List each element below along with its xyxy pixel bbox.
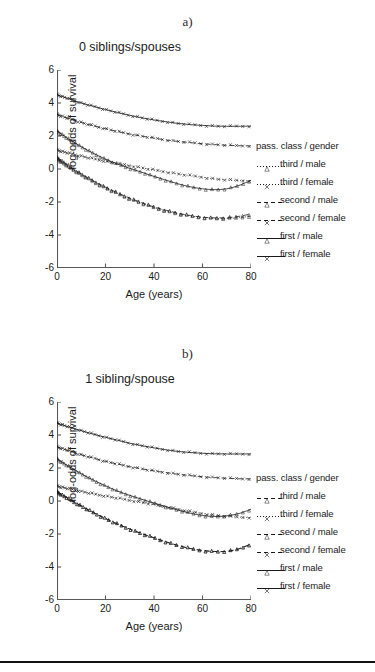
legend-item-second-male[interactable]: second / male: [256, 189, 374, 207]
legend-item-third-female[interactable]: third / female: [256, 171, 374, 189]
legend-item-second-female[interactable]: second / female: [256, 207, 374, 225]
x-tick-label: 20: [100, 604, 111, 614]
legend-label: second / female: [280, 212, 346, 223]
legend-marker-cross-icon: [262, 178, 272, 188]
legend-line-sample: [257, 172, 285, 174]
panel-b-title: 1 sibling/spouse: [0, 372, 260, 386]
x-tick-label: 60: [197, 604, 208, 614]
legend-label: third / female: [280, 176, 334, 187]
panel-b-letter: b): [0, 346, 375, 362]
legend-marker-triangle-icon: [262, 564, 272, 574]
legend-marker-cross-icon: [262, 214, 272, 224]
series-third-male: [57, 490, 251, 554]
x-tick-label: 80: [245, 272, 256, 282]
legend-item-second-male[interactable]: second / male: [256, 521, 374, 539]
legend-line-sample: [257, 576, 285, 578]
series-third-male: [57, 157, 251, 221]
legend-item-first-female[interactable]: first / female: [256, 243, 374, 261]
series-third-female: [57, 484, 251, 520]
x-tick-label: 80: [245, 604, 256, 614]
legend-marker-triangle-icon: [262, 196, 272, 206]
legend-line-sample: [257, 208, 285, 210]
x-tick-label: 0: [54, 272, 60, 282]
legend-line-sample: [257, 190, 285, 192]
panel-b-svg: [57, 402, 251, 600]
legend-item-third-male[interactable]: third / male: [256, 153, 374, 171]
legend-label: second / male: [280, 526, 338, 537]
legend-item-first-male[interactable]: first / male: [256, 225, 374, 243]
x-tick-label: 20: [100, 272, 111, 282]
legend-label: second / male: [280, 194, 338, 205]
legend-item-first-male[interactable]: first / male: [256, 557, 374, 575]
legend-marker-triangle-icon: [262, 528, 272, 538]
y-tick-label: 6: [48, 65, 54, 75]
panel-b-ylabel: log-odds of survival: [66, 399, 78, 509]
series-second-female: [57, 112, 251, 148]
y-tick-label: -6: [45, 263, 54, 273]
legend-line-sample: [257, 540, 285, 542]
legend-line-sample: [257, 154, 285, 156]
panel-a-ylabel: log-odds of survival: [66, 67, 78, 177]
panel-a-title: 0 siblings/spouses: [0, 40, 260, 54]
legend-title: pass. class / gender: [256, 472, 374, 483]
series-second-male: [57, 490, 251, 554]
y-tick-label: 4: [48, 98, 54, 108]
legend-items: third / malethird / femalesecond / males…: [256, 485, 374, 593]
legend-label: third / male: [280, 158, 326, 169]
x-tick-label: 40: [148, 272, 159, 282]
series-first-female: [57, 421, 251, 456]
legend-label: second / female: [280, 544, 346, 555]
panel-a-svg: [57, 70, 251, 268]
legend-marker-cross-icon: [262, 510, 272, 520]
legend-line-sample: [257, 244, 285, 246]
panel-a-xlabel: Age (years): [57, 288, 251, 300]
legend-label: first / male: [280, 562, 323, 573]
panel-a-legend: pass. class / gender third / malethird /…: [256, 140, 374, 261]
panel-b-xlabel: Age (years): [57, 620, 251, 632]
legend-line-sample: [257, 522, 285, 524]
x-tick-label: 0: [54, 604, 60, 614]
y-tick-label: -4: [45, 230, 54, 240]
legend-item-third-male[interactable]: third / male: [256, 485, 374, 503]
y-tick-label: 0: [48, 164, 54, 174]
y-tick-label: 2: [48, 131, 54, 141]
bottom-rule: [0, 661, 375, 663]
panel-b-legend: pass. class / gender third / malethird /…: [256, 472, 374, 593]
y-tick-label: 6: [48, 397, 54, 407]
x-tick-label: 40: [148, 604, 159, 614]
legend-item-second-female[interactable]: second / female: [256, 539, 374, 557]
legend-line-sample: [257, 226, 285, 228]
panel-a: a) 0 siblings/spouses log-odds of surviv…: [0, 0, 375, 336]
y-tick-label: 2: [48, 463, 54, 473]
legend-marker-cross-icon: [262, 546, 272, 556]
legend-label: first / female: [280, 580, 330, 591]
panel-b-plot: log-odds of survival Age (years) -6-4-20…: [57, 402, 251, 600]
x-tick-label: 60: [197, 272, 208, 282]
legend-items: third / malethird / femalesecond / males…: [256, 153, 374, 261]
legend-marker-cross-icon: [262, 582, 272, 592]
legend-marker-triangle-icon: [262, 232, 272, 242]
panel-a-plot: log-odds of survival Age (years) -6-4-20…: [57, 70, 251, 268]
y-tick-label: 4: [48, 430, 54, 440]
legend-line-sample: [257, 558, 285, 560]
legend-marker-triangle-icon: [262, 160, 272, 170]
legend-label: first / male: [280, 230, 323, 241]
legend-marker-triangle-icon: [262, 492, 272, 502]
legend-label: third / female: [280, 508, 334, 519]
legend-line-sample: [257, 504, 285, 506]
legend-item-third-female[interactable]: third / female: [256, 503, 374, 521]
series-first-female: [57, 93, 251, 129]
series-second-male: [57, 155, 251, 219]
y-tick-label: 0: [48, 496, 54, 506]
panel-b: b) 1 sibling/spouse log-odds of survival…: [0, 332, 375, 668]
legend-label: first / female: [280, 248, 330, 259]
panel-a-letter: a): [0, 14, 375, 30]
figure-canvas: a) 0 siblings/spouses log-odds of surviv…: [0, 0, 375, 672]
y-tick-label: -6: [45, 595, 54, 605]
y-tick-label: -2: [45, 197, 54, 207]
legend-marker-cross-icon: [262, 250, 272, 260]
legend-title: pass. class / gender: [256, 140, 374, 151]
y-tick-label: -4: [45, 562, 54, 572]
y-tick-label: -2: [45, 529, 54, 539]
legend-item-first-female[interactable]: first / female: [256, 575, 374, 593]
